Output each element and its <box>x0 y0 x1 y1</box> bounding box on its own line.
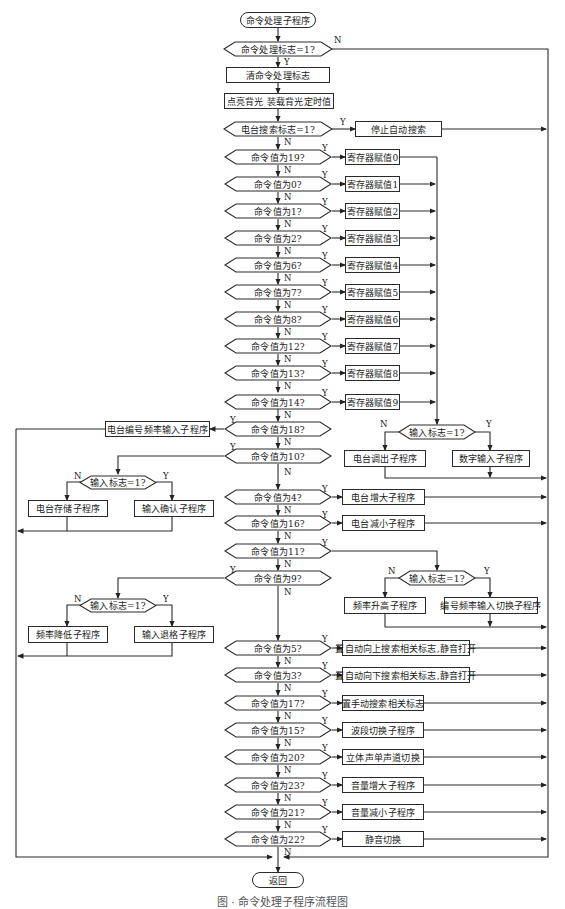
branch-label: Y <box>322 635 328 644</box>
station-down-box: 电台减小子程序 <box>342 515 425 531</box>
decision-cmd-register-3-label: 命令值为2? <box>254 232 302 245</box>
register-assign-box-3: 寄存器赋值3 <box>345 230 400 246</box>
input-confirm-box: 输入确认子程序 <box>134 500 214 517</box>
station-up-box: 电台增大子程序 <box>342 489 425 505</box>
branch-label: N <box>284 506 291 515</box>
decision-cmd-register-4: 命令值为6? <box>224 257 332 273</box>
branch-label: N <box>284 766 291 775</box>
register-assign-box-7: 寄存器赋值7 <box>345 338 400 354</box>
branch-label: Y <box>322 799 328 808</box>
tail-action-box-1: 置自动向下搜索相关标志,静音打开 <box>342 667 470 683</box>
number-freq-switch-box: 编号频率输入切换子程序 <box>444 597 538 614</box>
register-assign-box-6: 寄存器赋值6 <box>345 311 400 327</box>
branch-label: Y <box>322 662 328 671</box>
branch-label: Y <box>230 416 236 425</box>
decision-search-flag-label: 电台搜索标志=1? <box>241 123 315 136</box>
branch-label: N <box>284 712 291 721</box>
branch-label: Y <box>284 58 290 67</box>
decision-cmd9: 命令值为9? <box>224 570 332 586</box>
register-assign-box-4: 寄存器赋值4 <box>345 257 400 273</box>
tail-action-box-4: 立体声单声道切换 <box>342 749 424 765</box>
decision-cmd-register-3: 命令值为2? <box>224 230 332 246</box>
decision-cmd-register-2: 命令值为1? <box>224 203 332 219</box>
decision-cmd-tail-1-label: 命令值为3? <box>254 669 302 682</box>
decision-cmd-register-2-label: 命令值为1? <box>254 205 302 218</box>
branch-label: N <box>334 36 341 45</box>
branch-label: Y <box>322 279 328 288</box>
decision-cmd4: 命令值为4? <box>224 489 332 505</box>
branch-label: Y <box>230 443 236 452</box>
branch-label: Y <box>322 511 328 520</box>
branch-label: N <box>284 588 291 597</box>
decision-input-flag-left-1-label: 输入标志=1? <box>90 476 146 489</box>
decision-command-flag-label: 命令处理标志=1? <box>241 43 315 56</box>
decision-cmd-register-8: 命令值为13? <box>224 365 332 381</box>
decision-cmd-register-1: 命令值为0? <box>224 176 332 192</box>
decision-cmd9-label: 命令值为9? <box>254 572 302 585</box>
branch-label: Y <box>322 772 328 781</box>
decision-cmd16: 命令值为16? <box>224 515 332 531</box>
branch-label: N <box>284 355 291 364</box>
decision-cmd-tail-4: 命令值为20? <box>224 749 332 765</box>
branch-label: N <box>284 739 291 748</box>
decision-cmd-tail-5: 命令值为23? <box>224 777 332 793</box>
decision-cmd10-label: 命令值为10? <box>251 450 305 463</box>
decision-input-flag-right-1-label: 输入标志=1? <box>409 426 465 439</box>
decision-cmd-register-0-label: 命令值为19? <box>251 151 305 164</box>
decision-search-flag: 电台搜索标志=1? <box>223 121 333 137</box>
branch-label: N <box>284 274 291 283</box>
branch-label: N <box>284 193 291 202</box>
freq-up-box: 频率升高子程序 <box>344 597 426 614</box>
branch-label: Y <box>322 252 328 261</box>
station-recall-box: 电台调出子程序 <box>344 450 426 467</box>
register-assign-box-9: 寄存器赋值9 <box>345 394 400 410</box>
branch-label: N <box>284 821 291 830</box>
branch-label: N <box>284 220 291 229</box>
tail-action-box-7: 静音切换 <box>342 831 424 847</box>
branch-label: Y <box>340 118 346 127</box>
branch-label: N <box>284 328 291 337</box>
branch-label: Y <box>322 389 328 398</box>
branch-label: Y <box>322 360 328 369</box>
decision-input-flag-left-2-label: 输入标志=1? <box>90 599 146 612</box>
decision-cmd-tail-6-label: 命令值为21? <box>251 806 305 819</box>
decision-cmd4-label: 命令值为4? <box>254 491 302 504</box>
decision-cmd-register-6-label: 命令值为8? <box>254 313 302 326</box>
branch-label: Y <box>322 225 328 234</box>
branch-label: N <box>284 438 291 447</box>
decision-cmd-tail-3: 命令值为15? <box>224 722 332 738</box>
branch-label: Y <box>322 690 328 699</box>
register-assign-box-1: 寄存器赋值1 <box>345 176 400 192</box>
decision-cmd16-label: 命令值为16? <box>251 517 305 530</box>
decision-cmd10: 命令值为10? <box>224 448 332 464</box>
branch-label: N <box>284 532 291 541</box>
freq-down-box: 频率降低子程序 <box>28 626 108 643</box>
register-assign-box-0: 寄存器赋值0 <box>345 149 400 165</box>
branch-label: Y <box>230 566 236 575</box>
decision-cmd18: 命令值为18? <box>224 421 332 437</box>
branch-label: N <box>284 138 291 147</box>
register-assign-box-8: 寄存器赋值8 <box>345 365 400 381</box>
decision-cmd-tail-4-label: 命令值为20? <box>251 751 305 764</box>
branch-label: Y <box>486 420 492 429</box>
tail-action-box-2: 置手动搜索相关标志 <box>342 695 424 711</box>
branch-label: N <box>74 595 81 604</box>
branch-label: N <box>284 411 291 420</box>
decision-cmd-tail-3-label: 命令值为15? <box>251 724 305 737</box>
tail-action-box-6: 音量减小子程序 <box>342 804 424 820</box>
branch-label: N <box>284 684 291 693</box>
figure-caption: 图 · 命令处理子程序流程图 <box>0 893 565 909</box>
input-backspace-box: 输入退格子程序 <box>134 626 214 643</box>
decision-cmd-register-7: 命令值为12? <box>224 338 332 354</box>
branch-label: Y <box>322 826 328 835</box>
tail-action-box-0: 置自动向上搜索相关标志,静音打开 <box>342 640 470 656</box>
decision-cmd-tail-0: 命令值为5? <box>224 640 332 656</box>
branch-label: N <box>388 567 395 576</box>
decision-input-flag-left-2: 输入标志=1? <box>79 598 157 613</box>
branch-label: N <box>284 301 291 310</box>
decision-cmd18-label: 命令值为18? <box>251 423 305 436</box>
decision-cmd-register-5: 命令值为7? <box>224 284 332 300</box>
decision-cmd11: 命令值为11? <box>224 543 332 559</box>
clear-flag-box: 清命令处理标志 <box>226 67 330 83</box>
decision-input-flag-right-2-label: 输入标志=1? <box>409 572 465 585</box>
